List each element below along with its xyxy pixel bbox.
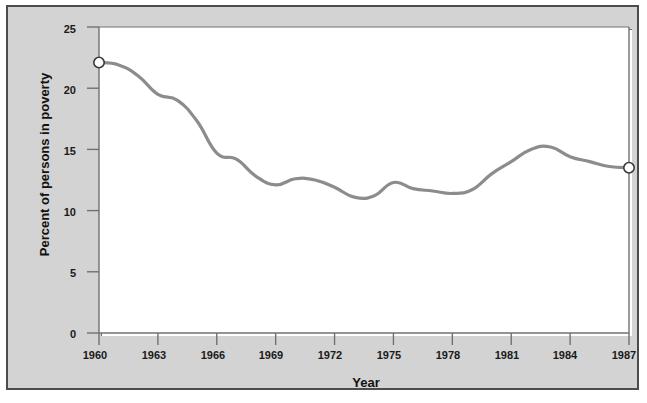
xtick-label: 1960: [70, 350, 120, 361]
legend-bar-icon: [376, 49, 422, 57]
legend-bar-icon: [376, 79, 422, 87]
xtick-label: 1984: [540, 350, 590, 361]
y-axis-title: Percent of persons in poverty: [37, 45, 52, 285]
legend-bars: [376, 49, 422, 94]
ytick-label: 25: [30, 24, 76, 35]
ytick-label: 0: [30, 329, 76, 340]
xtick-label: 1969: [246, 350, 296, 361]
figure-title-line-3: 1960–1987: [432, 79, 532, 95]
xtick-label: 1963: [129, 350, 179, 361]
xtick-label: 1966: [188, 350, 238, 361]
legend-bar-icon: [376, 64, 422, 72]
figure-frame: 25 20 15 10 5 0 1960 1963 1966 1969 1972…: [6, 5, 639, 390]
figure-title-line-1: Figure 2.5: [432, 48, 532, 64]
xtick-label: 1987: [599, 350, 647, 361]
figure-title-text: Figure 2.5 Trend in Poverty, 1960–1987: [432, 48, 532, 95]
x-axis-title: Year: [101, 375, 631, 390]
xtick-label: 1981: [482, 350, 532, 361]
xtick-label: 1972: [305, 350, 355, 361]
figure-title-line-2: Trend in Poverty,: [432, 64, 532, 80]
xtick-label: 1975: [364, 350, 414, 361]
xtick-label: 1978: [423, 350, 473, 361]
figure-container: 25 20 15 10 5 0 1960 1963 1966 1969 1972…: [0, 0, 647, 403]
